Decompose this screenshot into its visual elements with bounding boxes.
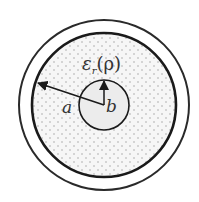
- inner-radius-label: b: [106, 96, 117, 116]
- outer-radius-label: a: [62, 97, 72, 117]
- coax-diagram: εr(ρ) a b: [0, 0, 199, 202]
- permittivity-label: εr(ρ): [82, 53, 121, 76]
